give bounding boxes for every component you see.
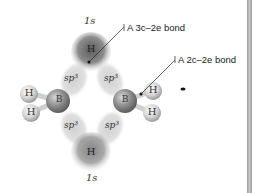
atom-label-bridging-h-bottom: H [85,146,97,157]
orbital-label-sp3-bottom-right: sp³ [105,120,119,130]
atom-label-h-left-bottom: H [25,106,37,117]
callout-3c2e-bond: A 3c–2e bond [127,22,185,33]
orbital-label-top-1s: 1s [84,15,96,26]
atom-label-bridging-h-top: H [85,43,97,54]
atom-label-h-right-bottom: H [146,106,158,117]
callout-2c2e-bond: A 2c–2e bond [178,54,236,65]
atom-label-h-right-top: H [147,84,159,95]
bottom-3c2e-orbital [55,106,130,172]
orbital-label-sp3-top-right: sp³ [104,73,118,83]
atom-label-boron-right: B [119,94,131,104]
atom-label-h-left-top: H [23,87,35,98]
orbital-label-bottom-1s: 1s [86,172,98,183]
orbital-label-sp3-top-left: sp³ [64,73,78,83]
atom-label-boron-left: B [53,94,65,104]
stray-mark [181,88,186,91]
orbital-label-sp3-bottom-left: sp³ [64,120,78,130]
